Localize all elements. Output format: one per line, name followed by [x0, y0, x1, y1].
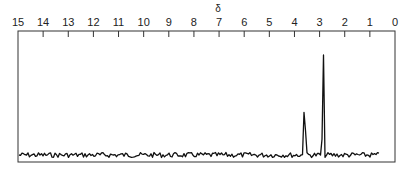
- nmr-spectrum-chart: δ 1514131211109876543210: [0, 0, 409, 170]
- x-axis-ticks: 1514131211109876543210: [12, 16, 398, 37]
- tick-label: 10: [138, 16, 150, 28]
- tick-label: 13: [62, 16, 74, 28]
- tick-label: 6: [241, 16, 247, 28]
- tick-label: 3: [317, 16, 323, 28]
- tick-label: 0: [392, 16, 398, 28]
- tick-label: 12: [87, 16, 99, 28]
- tick-label: 9: [166, 16, 172, 28]
- tick-label: 15: [12, 16, 24, 28]
- tick-label: 2: [342, 16, 348, 28]
- tick-label: 1: [367, 16, 373, 28]
- plot-frame: [18, 31, 395, 162]
- tick-label: 4: [291, 16, 297, 28]
- tick-label: 14: [37, 16, 49, 28]
- tick-label: 7: [216, 16, 222, 28]
- tick-label: 5: [266, 16, 272, 28]
- tick-label: 11: [113, 16, 124, 28]
- x-axis-label: δ: [215, 3, 221, 14]
- spectrum-trace: [19, 55, 379, 158]
- tick-label: 8: [191, 16, 197, 28]
